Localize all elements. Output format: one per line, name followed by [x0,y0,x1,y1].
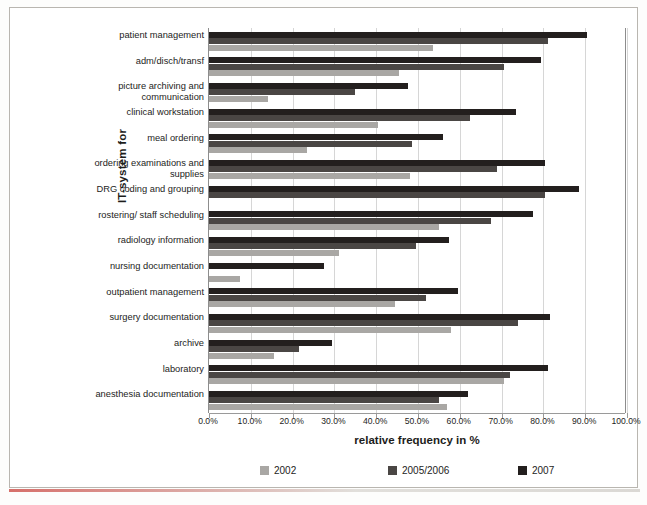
category-label: surgery documentation [64,312,204,323]
bar-group [209,387,625,413]
bar [209,378,504,384]
legend-label: 2002 [274,465,296,476]
bar [209,237,449,243]
category-label: clinical workstation [64,107,204,118]
bar-chart: IT-system for patient managementadm/disc… [12,10,635,485]
bar-group [209,310,625,336]
bar [209,96,268,102]
bar [209,57,541,63]
bar [209,173,410,179]
bar [209,327,451,333]
x-axis-line [209,413,625,414]
bar-group [209,259,625,285]
bar [209,263,324,269]
bar [209,340,332,346]
bar [209,314,550,320]
bar [209,166,497,172]
category-label: radiology information [64,235,204,246]
bar [209,89,355,95]
bar [209,301,395,307]
bar [209,83,408,89]
plot-area [208,28,626,413]
scanned-page: IT-system for patient managementadm/disc… [0,0,647,505]
bar [209,192,545,198]
bar [209,320,518,326]
x-tick-label: 70.0% [488,416,512,426]
bar-group [209,362,625,388]
bar [209,134,443,140]
bar-group [209,208,625,234]
bar [209,115,470,121]
category-label: laboratory [64,364,204,375]
bar [209,250,339,256]
bar [209,147,307,153]
bar-group [209,79,625,105]
page-edge-shadow [9,489,640,492]
bar [209,141,412,147]
category-label: picture archiving and communication [64,81,204,102]
bar-group [209,182,625,208]
category-label: nursing documentation [64,261,204,272]
y-axis-category-labels: patient managementadm/disch/transfpictur… [64,28,204,413]
x-tick-label: 90.0% [572,416,596,426]
x-axis-title: relative frequency in % [208,434,626,446]
bar [209,64,504,70]
bar [209,109,516,115]
bar [209,224,439,230]
bar-group [209,28,625,54]
bar [209,45,433,51]
x-axis-tick-labels: 0.0%10.0%20.0%30.0%40.0%50.0%60.0%70.0%8… [208,416,626,430]
bar [209,160,545,166]
legend-swatch-icon [260,466,269,475]
x-tick-label: 20.0% [279,416,303,426]
legend-swatch-icon [388,466,397,475]
bar [209,353,274,359]
bar [209,397,439,403]
legend-swatch-icon [518,466,527,475]
bar-group [209,131,625,157]
x-tick-label: 30.0% [321,416,345,426]
bar [209,122,378,128]
x-tick-label: 10.0% [238,416,262,426]
category-label: patient management [64,30,204,41]
category-label: rostering/ staff scheduling [64,210,204,221]
x-tick-label: 0.0% [198,416,218,426]
bar-group [209,285,625,311]
bar-group [209,233,625,259]
bar [209,218,491,224]
legend-item-2007[interactable]: 2007 [518,465,554,476]
gridline [627,28,628,413]
bar [209,346,299,352]
x-tick-label: 100.0% [611,416,640,426]
x-tick-label: 80.0% [530,416,554,426]
legend-label: 2007 [532,465,554,476]
bar [209,70,399,76]
bar-group [209,156,625,182]
chart-legend: 20022005/20062007 [208,465,626,483]
bar-group [209,54,625,80]
bar [209,32,587,38]
category-label: DRG coding and grouping [64,184,204,195]
bar-group [209,336,625,362]
category-label: ordering examinations and supplies [64,158,204,179]
x-tick-label: 50.0% [405,416,429,426]
bar [209,372,510,378]
bar [209,243,416,249]
bar [209,211,533,217]
bar [209,295,426,301]
category-label: adm/disch/transf [64,56,204,67]
legend-item-2002[interactable]: 2002 [260,465,296,476]
category-label: anesthesia documentation [64,389,204,400]
bar [209,404,447,410]
legend-item-2005-2006[interactable]: 2005/2006 [388,465,449,476]
category-label: outpatient management [64,287,204,298]
x-tick-label: 40.0% [363,416,387,426]
bar [209,38,548,44]
bar [209,288,458,294]
legend-label: 2005/2006 [402,465,449,476]
bar [209,391,468,397]
bar [209,186,579,192]
category-label: archive [64,338,204,349]
x-tick-label: 60.0% [447,416,471,426]
category-label: meal ordering [64,133,204,144]
